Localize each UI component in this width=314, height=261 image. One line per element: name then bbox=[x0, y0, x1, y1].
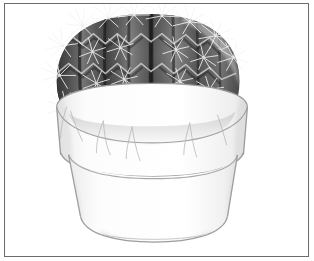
drawing-paper: Pencil drawing of a ribbed globular cact… bbox=[4, 3, 309, 257]
cactus-drawing-scene bbox=[5, 4, 308, 256]
artwork-frame: Pencil drawing of a ribbed globular cact… bbox=[0, 0, 314, 261]
